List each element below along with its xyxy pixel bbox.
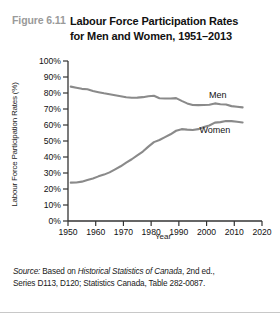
y-tick-label: 80% bbox=[44, 88, 62, 98]
figure-title-line-2: for Men and Women, 1951–2013 bbox=[70, 29, 272, 44]
source-line-1: Source: Based on Historical Statistics o… bbox=[13, 266, 271, 278]
y-tick-label: 60% bbox=[44, 120, 62, 130]
line-chart: 0%10%20%30%40%50%60%70%80%90%100% 195019… bbox=[0, 56, 280, 256]
source-line-2: Series D113, D120; Statistics Canada, Ta… bbox=[13, 278, 271, 290]
y-tick-label: 20% bbox=[44, 184, 62, 194]
x-axis-label: Year bbox=[68, 232, 258, 241]
chart-plot-area: Labour Force Participation Rates (%) 0%1… bbox=[0, 56, 280, 256]
y-tick-label: 10% bbox=[44, 200, 62, 210]
series-label-men: Men bbox=[209, 90, 227, 100]
series-label-women: Women bbox=[199, 125, 230, 135]
source-note: Source: Based on Historical Statistics o… bbox=[13, 266, 271, 289]
source-text-a: Based on bbox=[40, 267, 78, 276]
series-annotations: MenWomen bbox=[199, 90, 230, 135]
y-tick-label: 50% bbox=[44, 136, 62, 146]
figure-card: Figure 6.11 Labour Force Participation R… bbox=[0, 0, 280, 313]
y-tick-label: 40% bbox=[44, 152, 62, 162]
y-axis-ticks: 0%10%20%30%40%50%60%70%80%90%100% bbox=[39, 56, 68, 226]
source-italic-title: Historical Statistics of Canada bbox=[78, 267, 182, 276]
source-prefix: Source: bbox=[13, 267, 40, 276]
figure-title: Labour Force Participation Rates for Men… bbox=[70, 14, 280, 43]
figure-header: Figure 6.11 Labour Force Participation R… bbox=[0, 14, 280, 43]
y-tick-label: 30% bbox=[44, 168, 62, 178]
y-tick-label: 90% bbox=[44, 72, 62, 82]
y-tick-label: 100% bbox=[39, 56, 61, 66]
source-text-b: , 2nd ed., bbox=[182, 267, 215, 276]
y-tick-label: 0% bbox=[49, 216, 62, 226]
figure-title-line-1: Labour Force Participation Rates bbox=[70, 14, 272, 29]
figure-number: Figure 6.11 bbox=[12, 14, 70, 27]
y-tick-label: 70% bbox=[44, 104, 62, 114]
